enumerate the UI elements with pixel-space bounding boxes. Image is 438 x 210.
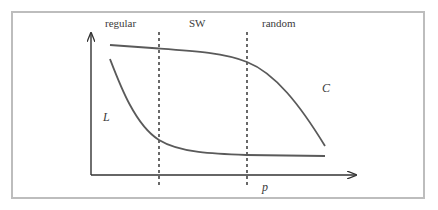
curve-c <box>110 45 325 146</box>
curve-label-l: L <box>102 110 110 124</box>
region-label-random: random <box>262 17 296 29</box>
curve-label-c: C <box>322 81 331 95</box>
region-label-regular: regular <box>105 17 136 29</box>
x-axis-label: p <box>261 180 268 194</box>
region-label-sw: SW <box>189 17 206 29</box>
diagram-canvas: regular SW random C L p <box>0 0 438 210</box>
curve-l <box>110 59 325 156</box>
